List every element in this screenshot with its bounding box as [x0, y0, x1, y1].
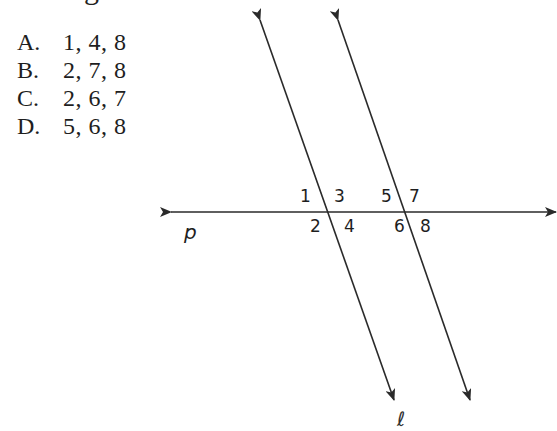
transversal-label-p: p: [184, 222, 197, 242]
angle-label-3: 3: [334, 188, 345, 205]
angle-label-8: 8: [420, 218, 431, 235]
angle-label-1: 1: [300, 188, 311, 205]
angle-label-2: 2: [310, 218, 321, 235]
angle-label-7: 7: [409, 188, 420, 205]
angle-label-5: 5: [381, 188, 392, 205]
angle-label-4: 4: [344, 218, 355, 235]
parallel-line-left: [260, 20, 394, 400]
parallel-line-right: [338, 20, 470, 400]
angle-label-6: 6: [394, 218, 405, 235]
